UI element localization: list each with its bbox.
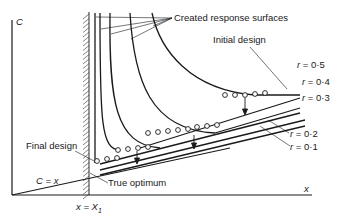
- created-response-surfaces-label: Created response surfaces: [174, 12, 288, 23]
- design-point-r04: [176, 128, 181, 133]
- design-point-r03: [136, 146, 141, 151]
- design-point-r05: [233, 93, 238, 98]
- response-surfaces-leaders: [96, 17, 172, 39]
- design-point-r03: [126, 147, 131, 152]
- r-label-05: r = 0·5: [297, 59, 325, 70]
- response-surface-diagram: C x x = X1 C = x Created response surfac…: [0, 0, 343, 222]
- r-label-02: r = 0·2: [290, 128, 318, 139]
- design-point-r05: [243, 93, 248, 98]
- final-design-leader: [75, 151, 96, 162]
- design-point-r04: [205, 124, 210, 129]
- asymptote-r01: [100, 126, 305, 175]
- design-point-r05: [253, 92, 258, 97]
- design-point-r03: [146, 145, 151, 150]
- true-optimum-label: True optimum: [108, 177, 166, 188]
- r-label-03: r = 0·3: [302, 92, 330, 103]
- design-point-r02: [105, 157, 110, 162]
- design-point-r05: [263, 91, 268, 96]
- asymptote-r03b: [100, 113, 300, 164]
- design-point-r04: [215, 123, 220, 128]
- design-point-r04: [156, 130, 161, 135]
- response-curve-r04: [130, 13, 215, 133]
- response-curve-r03: [110, 13, 160, 148]
- design-points: [95, 91, 268, 164]
- asymptote-r02: [100, 120, 305, 170]
- design-point-r04: [195, 125, 200, 130]
- r-label-01: r = 0·1: [290, 141, 318, 152]
- response-curve-r05: [152, 13, 255, 95]
- objective-line-label: C = x: [36, 175, 60, 186]
- x-axis-label: x: [303, 183, 310, 194]
- r-label-04: r = 0·4: [302, 76, 330, 87]
- design-point-r02: [95, 159, 100, 164]
- initial-design-leader: [250, 47, 287, 89]
- design-point-r02: [115, 156, 120, 161]
- initial-design-label: Initial design: [213, 34, 266, 45]
- final-design-label: Final design: [26, 140, 77, 151]
- design-point-r04: [186, 127, 191, 132]
- constraint-label: x = X1: [75, 201, 102, 214]
- y-axis-label: C: [16, 16, 23, 27]
- design-point-r03: [116, 148, 121, 153]
- constraint-wall: [83, 12, 89, 199]
- r02-leader: [268, 120, 289, 133]
- design-point-r04: [146, 131, 151, 136]
- design-point-r04: [166, 129, 171, 134]
- design-point-r05: [223, 93, 228, 98]
